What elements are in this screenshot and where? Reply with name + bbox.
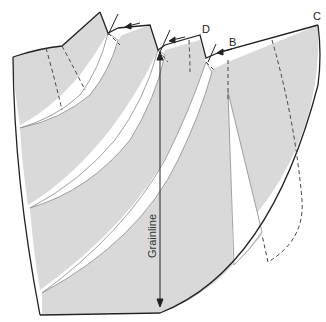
- pattern-diagram: Grainline D B C: [0, 0, 326, 322]
- label-d: D: [202, 23, 210, 35]
- label-b: B: [229, 36, 236, 48]
- arrow-left-icon: [217, 49, 232, 55]
- pattern-svg: Grainline D B C: [0, 0, 326, 322]
- grainline-label: Grainline: [146, 214, 158, 258]
- label-c: C: [313, 10, 321, 22]
- notch-tick-1: [108, 14, 118, 35]
- side-seam-right: [318, 25, 320, 85]
- notch-tick-3: [208, 44, 216, 62]
